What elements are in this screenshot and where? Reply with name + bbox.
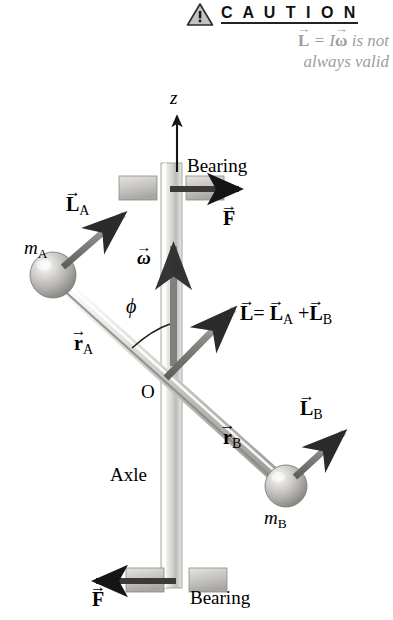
position-vector-b-label: r→B	[223, 427, 241, 451]
z-axis-label: z	[170, 88, 177, 107]
mass-a-label: mA	[24, 238, 47, 260]
angle-phi-label: ϕ	[126, 296, 136, 316]
physics-diagram-figure: C A U T I O N L→ = Iω→ is not always val…	[0, 0, 393, 620]
mass-b-label: mB	[264, 508, 287, 530]
bearing-top-label: Bearing	[187, 156, 247, 175]
angular-momentum-a-arrow	[63, 214, 124, 267]
diagram-canvas	[0, 0, 393, 620]
angular-momentum-b-label: L→B	[300, 398, 323, 422]
force-bottom-label: F→	[92, 589, 104, 609]
axle-label: Axle	[110, 465, 147, 484]
omega-label: ω→	[137, 248, 151, 267]
angular-momentum-b-arrow	[295, 432, 344, 477]
force-top-label: F→	[223, 208, 235, 228]
position-vector-a-label: r→A	[74, 333, 93, 357]
origin-label: O	[141, 382, 155, 401]
angular-momentum-a-label: L→A	[66, 194, 89, 218]
angular-momentum-total-equation: L→= L→A +L→B	[240, 303, 332, 327]
bearing-bottom-label: Bearing	[190, 588, 250, 607]
